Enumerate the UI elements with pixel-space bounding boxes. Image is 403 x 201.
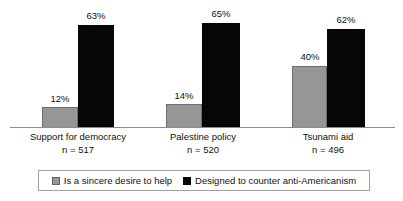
- black-square-icon: [183, 177, 191, 185]
- category-name: Support for democracy: [8, 131, 148, 144]
- bar-value-sincere-support-for-democracy: 12%: [40, 93, 80, 104]
- category-name: Tsunami aid: [258, 131, 398, 144]
- category-axis-labels: Support for democracy n = 517 Palestine …: [0, 131, 403, 165]
- x-axis-line: [10, 127, 395, 128]
- bar-sincere-support-for-democracy: [42, 107, 78, 128]
- category-label-palestine-policy: Palestine policy n = 520: [133, 131, 273, 156]
- legend-item-counter-anti-americanism: Designed to counter anti-Americanism: [183, 175, 356, 186]
- legend-label-counter-anti-americanism: Designed to counter anti-Americanism: [195, 175, 356, 186]
- bar-value-sincere-tsunami-aid: 40%: [290, 51, 330, 62]
- bar-sincere-tsunami-aid: [292, 66, 327, 128]
- category-name: Palestine policy: [133, 131, 273, 144]
- legend-label-sincere-desire: Is a sincere desire to help: [64, 175, 172, 186]
- category-sample-size: n = 517: [8, 144, 148, 157]
- category-sample-size: n = 496: [258, 144, 398, 157]
- bar-value-sincere-palestine-policy: 14%: [164, 90, 204, 101]
- bar-value-counter-tsunami-aid: 62%: [326, 14, 366, 25]
- bar-value-counter-support-for-democracy: 63%: [76, 10, 116, 21]
- bar-counter-support-for-democracy: [78, 25, 114, 128]
- chart-legend: Is a sincere desire to help Designed to …: [38, 170, 370, 191]
- gray-square-icon: [52, 177, 60, 185]
- category-label-tsunami-aid: Tsunami aid n = 496: [258, 131, 398, 156]
- plot-area: 12% 63% 14% 65% 40% 62%: [0, 0, 403, 128]
- bar-counter-tsunami-aid: [327, 29, 365, 128]
- legend-item-sincere-desire: Is a sincere desire to help: [52, 175, 172, 186]
- bar-counter-palestine-policy: [202, 23, 240, 128]
- bar-sincere-palestine-policy: [166, 104, 202, 128]
- category-label-support-for-democracy: Support for democracy n = 517: [8, 131, 148, 156]
- bar-value-counter-palestine-policy: 65%: [201, 8, 241, 19]
- bar-chart: 12% 63% 14% 65% 40% 62% Support for demo…: [0, 0, 403, 201]
- category-sample-size: n = 520: [133, 144, 273, 157]
